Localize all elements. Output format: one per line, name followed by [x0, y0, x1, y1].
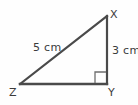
geometry-diagram: X Y Z 5 cm 3 cm — [0, 0, 138, 105]
vertex-label-x: X — [110, 9, 118, 20]
right-angle-marker-icon — [95, 72, 106, 83]
side-length-label-leg: 3 cm — [112, 45, 138, 56]
side-length-label-hypotenuse: 5 cm — [33, 42, 61, 53]
vertex-label-z: Z — [9, 87, 17, 98]
vertex-label-y: Y — [108, 87, 115, 98]
